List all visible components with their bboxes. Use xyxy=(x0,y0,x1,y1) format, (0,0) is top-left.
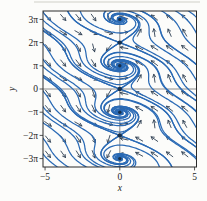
y-tick-label: −π xyxy=(28,107,38,117)
equilibrium-dot-spiral-core xyxy=(118,157,121,160)
field-arrow xyxy=(107,105,110,113)
solution-curve xyxy=(196,96,203,101)
y-tick-label: 0 xyxy=(33,84,38,94)
x-tick-label: −5 xyxy=(40,172,50,182)
field-arrow xyxy=(166,152,172,157)
field-arrow xyxy=(151,152,158,156)
solution-curve xyxy=(43,123,98,172)
y-tick-label: π xyxy=(33,61,38,71)
field-arrow xyxy=(168,29,172,36)
solution-curve xyxy=(37,71,43,76)
y-tick-label: −3π xyxy=(23,154,38,164)
field-arrow xyxy=(153,120,156,128)
field-arrow xyxy=(151,137,158,142)
field-arrow xyxy=(46,151,51,157)
solution-curve xyxy=(37,50,43,60)
equilibrium-dot-saddle xyxy=(118,40,122,44)
solution-curve xyxy=(196,17,204,25)
x-tick-label: 5 xyxy=(192,172,197,182)
solution-curve xyxy=(196,49,202,54)
solution-curve xyxy=(196,80,203,89)
field-arrow xyxy=(107,151,111,158)
solution-curve xyxy=(37,118,43,123)
field-arrow xyxy=(92,60,96,67)
field-arrow xyxy=(136,107,143,111)
field-arrow xyxy=(182,46,188,51)
phase-portrait-canvas: 3π2ππ0−π−2π−3π−505xy xyxy=(0,0,207,201)
y-tick-label: 2π xyxy=(28,38,38,48)
y-tick-label: −2π xyxy=(23,131,38,141)
field-arrow xyxy=(61,151,66,157)
solution-curve xyxy=(196,112,202,119)
field-arrow xyxy=(75,31,82,35)
field-arrow xyxy=(61,106,66,112)
solution-curve xyxy=(196,64,204,73)
field-arrow xyxy=(151,46,158,50)
field-arrow xyxy=(46,136,51,142)
field-arrow xyxy=(120,46,128,49)
y-axis-label: y xyxy=(7,86,17,92)
field-arrow xyxy=(153,74,156,82)
equilibrium-dot-saddle xyxy=(118,87,122,91)
field-arrow xyxy=(183,120,187,127)
field-arrow xyxy=(76,14,81,20)
field-arrow xyxy=(183,75,187,82)
field-arrow xyxy=(168,75,171,82)
solution-curve xyxy=(196,128,203,137)
field-arrow xyxy=(76,105,80,112)
equilibrium-dot-spiral-core xyxy=(118,110,121,113)
solution-curve xyxy=(43,44,130,120)
phase-portrait-figure: 3π2ππ0−π−2π−3π−505xy xyxy=(0,0,207,201)
field-arrow xyxy=(61,60,66,66)
equilibrium-dot-spiral-core xyxy=(118,18,121,21)
field-arrow xyxy=(136,152,143,156)
field-arrow xyxy=(182,152,188,157)
field-arrow xyxy=(168,120,171,127)
field-arrow xyxy=(92,44,95,52)
field-arrow xyxy=(136,137,143,141)
y-tick-label: 3π xyxy=(28,15,38,25)
solution-curve xyxy=(37,98,43,108)
x-tick-label: 0 xyxy=(117,172,122,182)
field-arrow xyxy=(76,151,80,158)
field-arrow xyxy=(153,29,156,37)
field-arrow xyxy=(91,14,96,21)
equilibrium-dot-saddle xyxy=(118,133,122,137)
solution-curve xyxy=(196,159,204,169)
equilibrium-dot-spiral-core xyxy=(118,64,121,67)
x-axis-label: x xyxy=(117,183,123,193)
solution-curve xyxy=(196,143,203,148)
solution-curve xyxy=(196,33,203,42)
field-arrow xyxy=(61,15,66,21)
